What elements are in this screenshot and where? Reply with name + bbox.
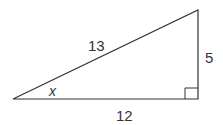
hypotenuse-label: 13 [88,37,105,54]
vertical-leg-label: 5 [205,49,213,66]
triangle [13,10,198,99]
horizontal-leg-label: 12 [116,107,133,124]
right-angle-marker [185,88,198,99]
angle-label: x [48,83,57,99]
right-triangle-diagram: 13 5 x 12 [0,0,223,125]
